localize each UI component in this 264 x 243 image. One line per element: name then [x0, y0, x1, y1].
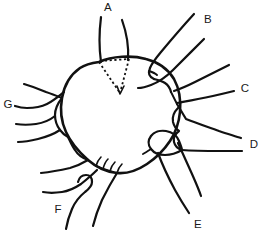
label-g: G — [3, 98, 12, 110]
label-group: A B C D E F G — [3, 1, 258, 230]
appendage-d — [173, 104, 242, 151]
appendage-b — [138, 14, 204, 92]
label-a: A — [104, 1, 112, 13]
dotted-triangle-marker — [99, 59, 129, 94]
comb-teeth-cluster — [96, 157, 122, 173]
label-b: B — [204, 13, 212, 25]
biological-line-diagram: A B C D E F G — [0, 0, 264, 243]
label-e: E — [194, 218, 202, 230]
appendage-e — [143, 131, 201, 213]
label-c: C — [241, 82, 250, 94]
appendage-a — [100, 17, 129, 62]
label-d: D — [250, 138, 259, 150]
figure-root: A B C D E F G — [0, 0, 264, 243]
label-f: F — [54, 203, 61, 215]
